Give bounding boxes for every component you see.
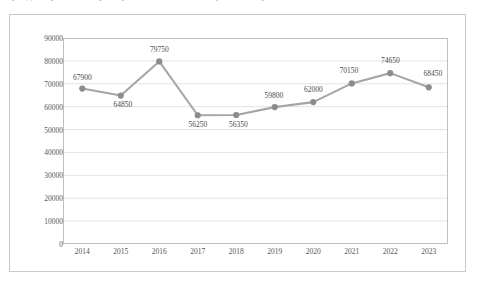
y-tick-label: 20000 xyxy=(44,194,63,203)
y-tick-label: 40000 xyxy=(44,148,63,157)
data-point-marker xyxy=(118,92,124,98)
x-tick-label: 2023 xyxy=(421,247,436,256)
y-tick-label: 90000 xyxy=(44,34,63,43)
cropped-text-fragment: граждан, принятых на работу, а также чис… xyxy=(8,0,307,1)
cropped-text-line: граждан, принятых на работу, а также чис… xyxy=(0,0,477,7)
data-point-marker xyxy=(156,58,162,64)
data-point-marker xyxy=(387,70,393,76)
chart-card: 0100002000030000400005000060000700008000… xyxy=(9,14,466,272)
y-tick-label: 70000 xyxy=(44,79,63,88)
x-tick-label: 2016 xyxy=(152,247,167,256)
x-tick-label: 2020 xyxy=(306,247,321,256)
data-point-marker xyxy=(426,84,432,90)
axis-lines xyxy=(63,38,448,244)
x-tick-label: 2014 xyxy=(75,247,90,256)
x-tick-label: 2017 xyxy=(190,247,205,256)
plot-area: 6790064850797505625056350598006200070150… xyxy=(63,38,448,244)
y-tick-label: 50000 xyxy=(44,125,63,134)
chart-plot-wrapper: 0100002000030000400005000060000700008000… xyxy=(10,15,465,271)
x-tick-label: 2018 xyxy=(229,247,244,256)
series-markers xyxy=(79,58,432,118)
y-tick-label: 60000 xyxy=(44,102,63,111)
data-point-marker xyxy=(310,99,316,105)
x-tick-label: 2022 xyxy=(383,247,398,256)
y-tick-label: 30000 xyxy=(44,171,63,180)
data-point-marker xyxy=(79,85,85,91)
y-tick-label: 80000 xyxy=(44,56,63,65)
x-tick-label: 2015 xyxy=(113,247,128,256)
y-tick-label: 10000 xyxy=(44,217,63,226)
x-axis-tick-labels: 2014201520162017201820192020202120222023 xyxy=(63,247,448,263)
data-point-marker xyxy=(233,112,239,118)
data-point-marker xyxy=(349,80,355,86)
gridlines xyxy=(63,38,448,244)
data-point-marker xyxy=(195,112,201,118)
line-chart-svg xyxy=(63,38,448,244)
x-tick-label: 2019 xyxy=(267,247,282,256)
series-line xyxy=(82,61,429,115)
data-point-marker xyxy=(272,104,278,110)
y-axis-tick-labels: 0100002000030000400005000060000700008000… xyxy=(20,38,63,244)
x-tick-label: 2021 xyxy=(344,247,359,256)
